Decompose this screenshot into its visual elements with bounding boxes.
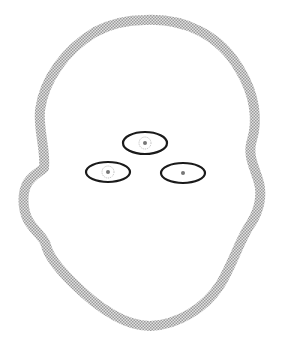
- center-dot-icon: [181, 171, 185, 175]
- region-left-cheek: [86, 162, 130, 182]
- center-dot-icon: [143, 141, 147, 145]
- region-right-cheek: [161, 163, 205, 183]
- center-dot-icon: [106, 170, 110, 174]
- face-diagram: [0, 0, 285, 347]
- head-outline: [24, 20, 261, 326]
- region-forehead: [123, 132, 167, 154]
